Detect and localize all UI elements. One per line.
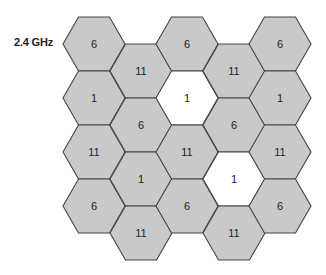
channel-label: 1: [138, 173, 144, 185]
channel-label: 6: [91, 200, 97, 212]
channel-label: 1: [91, 92, 97, 104]
channel-label: 11: [228, 65, 239, 77]
channel-label: 11: [88, 146, 99, 158]
channel-label: 6: [277, 200, 283, 212]
channel-label: 1: [184, 92, 190, 104]
channel-label: 11: [228, 227, 239, 239]
channel-label: 11: [135, 227, 146, 239]
channel-label: 6: [184, 200, 190, 212]
channel-label: 11: [274, 146, 285, 158]
channel-label: 1: [277, 92, 283, 104]
channel-label: 11: [181, 146, 192, 158]
channel-label: 6: [277, 38, 283, 50]
channel-label: 1: [231, 173, 237, 185]
channel-label: 6: [91, 38, 97, 50]
channel-label: 6: [184, 38, 190, 50]
channel-label: 11: [135, 65, 146, 77]
channel-label: 6: [138, 119, 144, 131]
channel-label: 6: [231, 119, 237, 131]
hex-channel-grid: 611161161116111611611161116: [0, 0, 326, 275]
